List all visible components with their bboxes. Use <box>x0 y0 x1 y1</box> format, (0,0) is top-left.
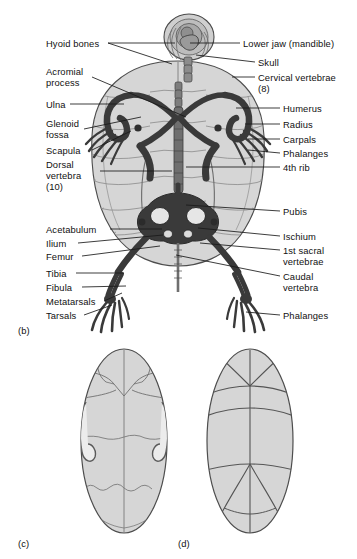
label-ilium: Ilium <box>46 238 66 249</box>
label-tibia: Tibia <box>46 268 66 279</box>
label-acromial-process: Acromial process <box>46 66 83 88</box>
label-carpals: Carpals <box>283 134 316 145</box>
carapace-panel <box>206 349 294 533</box>
label-metatarsals: Metatarsals <box>46 296 96 307</box>
label-fibula: Fibula <box>46 282 72 293</box>
label-humerus: Humerus <box>283 103 322 114</box>
label-first-sacral-vertebrae: 1st sacral vertebrae <box>283 245 324 267</box>
skull-group <box>164 14 214 60</box>
right-pelvic-foramen <box>184 230 193 238</box>
left-pelvic-foramen <box>164 230 173 238</box>
plastron-panel <box>80 349 168 533</box>
label-glenoid-fossa: Glenoid fossa <box>46 118 79 140</box>
label-caudal-vertebra: Caudal vertebra <box>283 271 318 293</box>
panel-tag-plastron-view: (c) <box>18 538 29 549</box>
label-hyoid-bones: Hyoid bones <box>46 38 99 49</box>
right-glenoid-fossa-shape <box>214 124 221 131</box>
panel-tag-carapace-view: (d) <box>178 538 190 549</box>
leader-line-hyoid-bones-b <box>108 43 172 64</box>
left-glenoid-fossa-shape <box>134 124 141 131</box>
leader-line-skull <box>196 55 255 62</box>
anatomy-figure: Hyoid bonesAcromial processUlnaGlenoid f… <box>0 0 357 559</box>
left-hindfoot-digits <box>92 298 129 332</box>
left-acetabulum-shape <box>139 219 146 226</box>
label-lower-jaw-mandible: Lower jaw (mandible) <box>243 38 334 49</box>
label-cervical-vertebrae: Cervical vertebrae (8) <box>258 72 336 94</box>
label-tarsals: Tarsals <box>46 310 76 321</box>
label-pubis: Pubis <box>283 206 307 217</box>
label-radius: Radius <box>283 119 313 130</box>
label-phalanges-hind: Phalanges <box>283 310 328 321</box>
label-fourth-rib: 4th rib <box>283 162 310 173</box>
label-dorsal-vertebra: Dorsal vertebra (10) <box>46 159 81 193</box>
label-phalanges-fore: Phalanges <box>283 148 328 159</box>
right-hindfoot-digits <box>227 298 264 332</box>
right-obturator-foramen <box>187 208 206 225</box>
leader-line-fibula <box>82 286 126 287</box>
caudal-vertebrae-shape <box>174 243 182 292</box>
label-skull: Skull <box>258 57 279 68</box>
right-acetabulum-shape <box>211 219 218 226</box>
label-scapula: Scapula <box>46 145 81 156</box>
label-acetabulum: Acetabulum <box>46 224 97 235</box>
label-ischium: Ischium <box>283 231 316 242</box>
label-femur: Femur <box>46 251 74 262</box>
label-ulna: Ulna <box>46 99 66 110</box>
left-obturator-foramen <box>151 208 170 225</box>
panel-tag-skeleton-dorsal-view: (b) <box>18 325 30 336</box>
skeleton-panel <box>70 14 280 332</box>
